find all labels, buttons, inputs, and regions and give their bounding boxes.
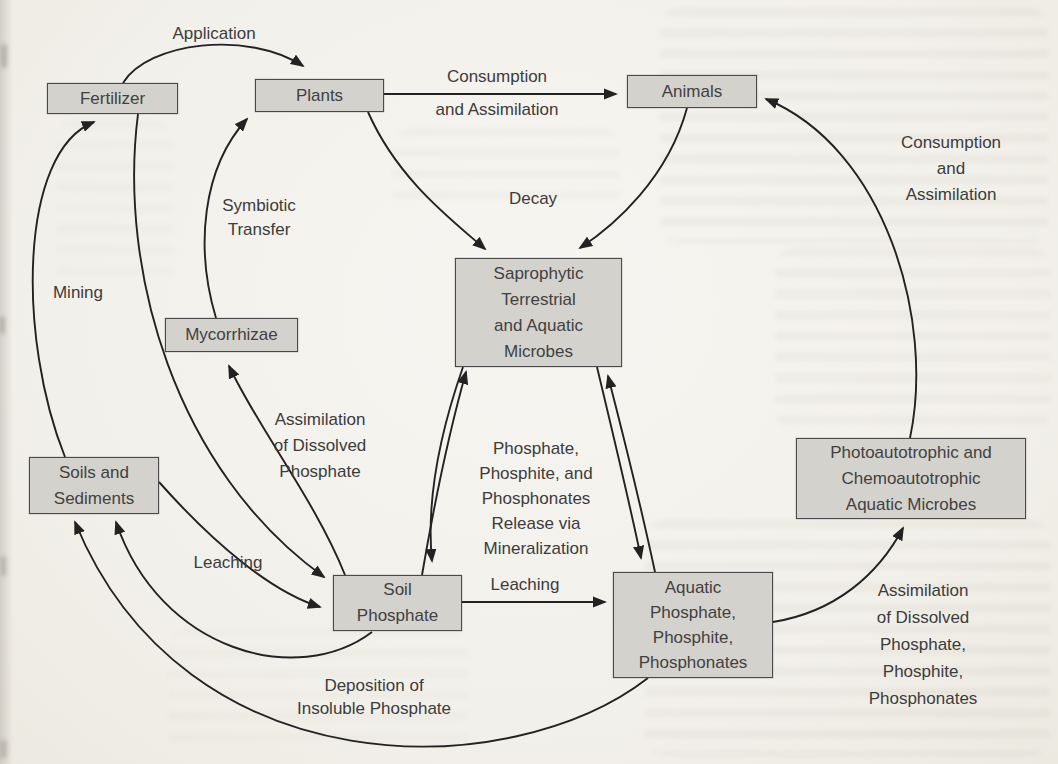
arrow-soil-to-sapro-uptake [422, 372, 466, 575]
arrow-plants-decay [368, 112, 485, 249]
label-assimilation-dissolved-soil: Assimilation of Dissolved Phosphate [274, 407, 367, 485]
arrow-sapro-to-soil-mineralization [431, 367, 463, 561]
arrow-sapro-to-aquatic-mineralization [597, 367, 641, 558]
node-plants: Plants [255, 79, 384, 112]
arrow-soils-leaching [159, 482, 320, 607]
node-soils-and-sediments: Soils and Sediments [29, 457, 159, 514]
arrow-animals-decay [580, 108, 687, 248]
label-consumption-microbes-animals: Consumption and Assimilation [898, 130, 1005, 208]
node-saprophytic-microbes: Saprophytic Terrestrial and Aquatic Micr… [455, 258, 622, 367]
label-leaching-soil-to-aquatic: Leaching [490, 572, 559, 597]
label-mining: Mining [53, 280, 103, 305]
phosphorus-cycle-diagram: Fertilizer Plants Animals Mycorrhizae Sa… [0, 0, 1058, 764]
node-soil-phosphate: Soil Phosphate [333, 575, 462, 631]
label-leaching-soils: Leaching [193, 550, 262, 575]
node-photo-chemo-microbes: Photoautotrophic and Chemoautotrophic Aq… [796, 438, 1026, 519]
arrow-aquatic-to-sapro-uptake [608, 376, 655, 572]
node-animals: Animals [627, 75, 757, 108]
label-decay: Decay [509, 186, 557, 211]
label-application: Application [172, 21, 255, 46]
label-mineralization-release: Phosphate, Phosphite, and Phosphonates R… [479, 436, 592, 561]
label-symbiotic-transfer: Symbiotic Transfer [222, 194, 296, 242]
node-mycorrhizae: Mycorrhizae [165, 318, 298, 352]
arrow-photochemo-to-animals [766, 99, 916, 438]
node-fertilizer: Fertilizer [47, 83, 178, 114]
label-assimilation-dissolved-aquatic: Assimilation of Dissolved Phosphate, Pho… [869, 577, 978, 712]
label-deposition-insoluble: Deposition of Insoluble Phosphate [297, 674, 451, 720]
node-aquatic-phosphate: Aquatic Phosphate, Phosphite, Phosphonat… [613, 572, 773, 678]
arrow-application [123, 45, 303, 83]
label-consumption-plants-animals: Consumption and Assimilation [436, 60, 559, 126]
